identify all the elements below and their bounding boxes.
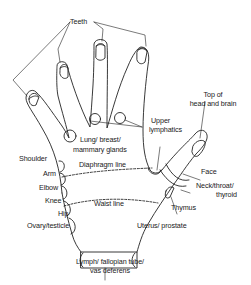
label-neck-line2: thyroid	[216, 191, 237, 199]
label-lymph-line2: vas deferens	[55, 267, 165, 275]
label-upper-lymphatics-line2: lymphatics	[149, 126, 182, 134]
hand-outline-drawing	[0, 0, 251, 285]
label-top-of-head-line1: Top of	[183, 91, 243, 99]
label-diaphragm-line: Diaphragm line	[79, 161, 126, 169]
label-ovary-testicle: Ovary/testicle	[27, 222, 69, 230]
label-upper-lymphatics-line1: Upper	[151, 117, 170, 125]
nail-pinky	[29, 93, 39, 105]
thymus-oval	[165, 187, 174, 198]
label-neck-line1: Neck/throat/	[196, 182, 234, 190]
label-lymph-line1: Lymph/ fallopian tube/	[55, 258, 165, 266]
label-waist-line: Waist line	[94, 200, 124, 208]
label-elbow: Elbow	[39, 184, 58, 192]
label-face: Face	[201, 168, 217, 176]
ring-base-circle	[64, 130, 76, 142]
label-knee: Knee	[45, 197, 61, 205]
label-teeth: Teeth	[70, 18, 87, 26]
label-arm: Arm	[43, 170, 56, 178]
nail-thumb	[192, 140, 205, 156]
label-uterus-prostate: Uterus/ prostate	[137, 222, 187, 230]
label-thymus: Thymus	[171, 204, 196, 212]
index-base-circle	[115, 113, 126, 124]
nail-middle	[96, 44, 105, 61]
diaphragm-line	[62, 168, 152, 177]
label-top-of-head-line2: head and brain	[183, 100, 243, 108]
label-hip: Hip	[58, 210, 69, 218]
hand-reflexology-diagram: Teeth Top of head and brain Upper lympha…	[0, 0, 251, 285]
label-shoulder: Shoulder	[19, 155, 47, 163]
middle-base-circle	[90, 114, 101, 125]
label-lung-line1: Lung/ breast/	[80, 136, 121, 144]
label-lung-line2: mammary glands	[73, 146, 127, 154]
